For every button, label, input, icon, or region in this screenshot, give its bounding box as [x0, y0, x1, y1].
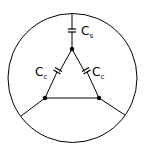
right-lead-to-circle [99, 98, 125, 115]
left-lead-to-circle [21, 98, 45, 116]
circuit-diagram: Cs Cc Cc [0, 0, 144, 151]
shield-capacitor-branch [68, 14, 76, 50]
node-bottom-left [43, 96, 47, 100]
right-coupling-cap-label: Cc [92, 65, 104, 81]
node-bottom-right [97, 96, 101, 100]
left-coupling-capacitor-branch [45, 49, 72, 98]
left-coupling-cap-label: Cc [35, 65, 47, 81]
shield-cap-label: Cs [81, 24, 93, 40]
node-top [70, 47, 74, 51]
